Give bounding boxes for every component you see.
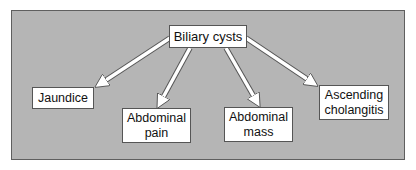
node-label: Jaundice xyxy=(38,91,88,106)
arrow-to-jaundice xyxy=(100,38,170,84)
node-label: Abdominal pain xyxy=(127,111,186,141)
node-label: Abdominal mass xyxy=(229,110,288,140)
node-biliary-cysts: Biliary cysts xyxy=(169,25,247,48)
node-label: Ascending cholangitis xyxy=(324,88,383,118)
arrow-to-abdominal-pain xyxy=(160,48,190,103)
node-jaundice: Jaundice xyxy=(32,87,94,109)
node-abdominal-pain: Abdominal pain xyxy=(122,108,191,143)
arrow-to-abdominal-mass xyxy=(226,48,257,102)
arrow-to-ascending-cholangitis xyxy=(246,38,313,83)
node-ascending-cholangitis: Ascending cholangitis xyxy=(319,85,389,120)
node-abdominal-mass: Abdominal mass xyxy=(224,107,293,142)
node-label: Biliary cysts xyxy=(174,29,243,44)
